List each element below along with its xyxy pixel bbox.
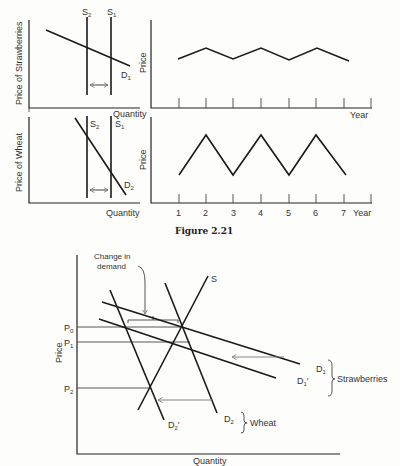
- strawberry-time-axes: [151, 20, 372, 108]
- price-label-p2: P2: [64, 384, 74, 395]
- strawberries-group-label: Strawberries: [337, 374, 388, 384]
- wheat-brace: [241, 412, 247, 433]
- wheat-time-axes: [151, 117, 372, 203]
- demand-label-d1: D1: [316, 364, 327, 375]
- strawberry-year-ticks: [179, 98, 371, 108]
- annotation-pointer: [138, 266, 145, 314]
- wheat-group-label: Wheat: [250, 418, 277, 428]
- price-label-p0: P0: [64, 323, 74, 334]
- combined-price-axis-label: Price: [54, 342, 64, 363]
- strawberry-supply-demand-panel: Price of Strawberries S2 S1 D1 Quantity: [14, 7, 147, 119]
- strawberry-quantity-axis-label: Quantity: [113, 109, 147, 119]
- supply-label-s2-wheat: S2: [90, 119, 100, 130]
- demand-label-d1: D1: [121, 70, 132, 81]
- demand-label-d2: D2: [124, 180, 135, 191]
- svg-text:7: 7: [341, 208, 346, 218]
- demand-label-d1-prime: D1′: [297, 376, 309, 387]
- combined-demand-diagram: Price Quantity Change in demand P0 P1 P2…: [54, 252, 388, 466]
- wheat-price-axis-label: Price of Wheat: [14, 132, 24, 192]
- svg-text:3: 3: [231, 208, 236, 218]
- change-in-demand-label-line1: Change in: [94, 252, 130, 261]
- strawberries-brace: [328, 360, 335, 396]
- demand-curve-d2: [75, 118, 126, 195]
- wheat-supply-demand-panel: Price of Wheat S2 S1 D2 Quantity: [14, 116, 140, 218]
- svg-text:5: 5: [286, 208, 291, 218]
- strawberry-price-line: [178, 48, 349, 61]
- wheat-quantity-axis-label: Quantity: [106, 208, 140, 218]
- wheat-year-ticks: [179, 194, 371, 203]
- svg-text:2: 2: [203, 208, 208, 218]
- svg-text:4: 4: [258, 208, 263, 218]
- strawberry-price-time-panel: Price Year: [138, 20, 372, 120]
- change-in-demand-label-line2: demand: [97, 262, 126, 271]
- supply-label-s2: S2: [82, 7, 92, 18]
- year-tick-labels: 1 2 3 4 5 6 7: [176, 208, 346, 218]
- supply-label-s: S: [211, 274, 217, 284]
- supply-label-s1-wheat: S1: [115, 119, 125, 130]
- combined-axes: [77, 255, 340, 454]
- demand-curve-d2-prime: [110, 290, 164, 420]
- demand-label-d2-prime: D2′: [168, 420, 180, 431]
- demand-label-d2: D2: [224, 414, 235, 425]
- demand-curve-d2: [165, 283, 217, 413]
- svg-text:6: 6: [313, 208, 318, 218]
- change-in-demand-brace: [128, 316, 178, 323]
- figure-caption: Figure 2.21: [175, 226, 233, 236]
- wheat-price-time-panel: Price 1 2 3 4 5 6 7 Year: [138, 117, 372, 218]
- combined-quantity-axis-label: Quantity: [193, 456, 227, 466]
- demand-curve-d1: [102, 302, 300, 364]
- wheat-price-line: [179, 135, 346, 175]
- wheat-year-axis-label: Year: [353, 208, 371, 218]
- svg-text:1: 1: [176, 208, 181, 218]
- figure-canvas: Price of Strawberries S2 S1 D1 Quantity …: [0, 0, 400, 466]
- demand-curve-d1: [46, 30, 130, 66]
- wheat-time-price-label: Price: [138, 149, 148, 170]
- strawberry-year-axis-label: Year: [350, 110, 368, 120]
- strawberry-price-axis-label: Price of Strawberries: [14, 21, 24, 105]
- price-label-p1: P1: [64, 338, 74, 349]
- supply-label-s1: S1: [107, 7, 117, 18]
- strawberry-time-price-label: Price: [138, 52, 148, 73]
